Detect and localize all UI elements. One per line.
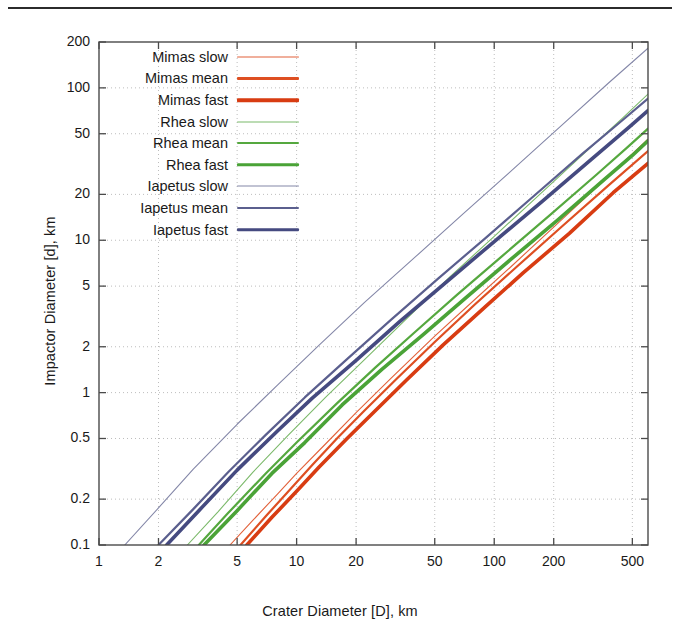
legend-item-label: Iapetus fast	[153, 222, 237, 238]
legend-item-label: Mimas mean	[145, 70, 237, 86]
x-tick-label: 500	[602, 553, 662, 569]
legend-item-label: Mimas fast	[158, 92, 237, 108]
x-tick-label: 200	[524, 553, 584, 569]
legend-item[interactable]: Mimas mean	[104, 68, 299, 90]
x-tick-label: 50	[405, 553, 465, 569]
y-tick-label: 2	[32, 338, 90, 354]
legend-color-swatch	[237, 202, 299, 214]
plot-area	[0, 0, 680, 643]
x-axis-title: Crater Diameter [D], km	[0, 603, 680, 619]
legend-color-swatch	[237, 116, 299, 128]
y-tick-label: 0.1	[32, 536, 90, 552]
y-tick-label: 50	[32, 125, 90, 141]
legend-item-label: Rhea slow	[160, 114, 237, 130]
legend-color-swatch	[237, 137, 299, 149]
legend-item-label: Rhea fast	[166, 157, 237, 173]
page-bottom-caption	[18, 632, 638, 641]
legend-item[interactable]: Iapetus fast	[104, 219, 299, 241]
y-tick-label: 0.5	[32, 429, 90, 445]
series-line	[247, 163, 648, 545]
legend-item[interactable]: Iapetus mean	[104, 197, 299, 219]
x-tick-label: 1	[69, 553, 129, 569]
legend: Mimas slowMimas meanMimas fastRhea slowR…	[104, 46, 299, 240]
legend-color-swatch	[237, 94, 299, 106]
y-tick-label: 10	[32, 231, 90, 247]
legend-color-swatch	[237, 159, 299, 171]
legend-item-label: Iapetus mean	[140, 200, 237, 216]
legend-item[interactable]: Rhea mean	[104, 132, 299, 154]
x-tick-label: 5	[207, 553, 267, 569]
legend-item-label: Rhea mean	[153, 135, 237, 151]
y-tick-label: 20	[32, 185, 90, 201]
y-tick-label: 200	[32, 33, 90, 49]
legend-color-swatch	[237, 72, 299, 84]
x-tick-label: 20	[326, 553, 386, 569]
y-tick-label: 0.2	[32, 490, 90, 506]
legend-item[interactable]: Rhea slow	[104, 111, 299, 133]
legend-color-swatch	[237, 224, 299, 236]
legend-item[interactable]: Rhea fast	[104, 154, 299, 176]
legend-item-label: Iapetus slow	[147, 178, 237, 194]
legend-color-swatch	[237, 51, 299, 63]
legend-item[interactable]: Iapetus slow	[104, 176, 299, 198]
x-tick-label: 10	[267, 553, 327, 569]
legend-item[interactable]: Mimas slow	[104, 46, 299, 68]
legend-item-label: Mimas slow	[152, 49, 237, 65]
x-tick-label: 100	[464, 553, 524, 569]
y-tick-label: 100	[32, 79, 90, 95]
y-axis-title: Impactor Diameter [d], km	[42, 21, 58, 581]
crater-impactor-figure: 0.10.20.5125102050100200 125102050100200…	[0, 0, 680, 643]
y-tick-label: 1	[32, 384, 90, 400]
y-tick-label: 5	[32, 277, 90, 293]
legend-item[interactable]: Mimas fast	[104, 89, 299, 111]
x-tick-label: 2	[128, 553, 188, 569]
legend-color-swatch	[237, 180, 299, 192]
